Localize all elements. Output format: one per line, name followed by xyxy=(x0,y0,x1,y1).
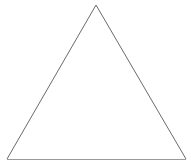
triangle-svg xyxy=(0,0,191,166)
figure-canvas xyxy=(0,0,191,166)
